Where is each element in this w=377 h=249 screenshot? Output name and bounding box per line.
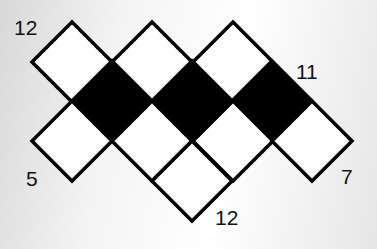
- clue-bottom-right: 7: [341, 166, 353, 187]
- clue-top-right: 11: [296, 61, 318, 82]
- clue-top-left: 12: [14, 17, 37, 38]
- clue-bottom-middle: 12: [215, 207, 238, 228]
- clue-bottom-left: 5: [26, 168, 38, 189]
- diamond-grid-puzzle: [0, 0, 377, 249]
